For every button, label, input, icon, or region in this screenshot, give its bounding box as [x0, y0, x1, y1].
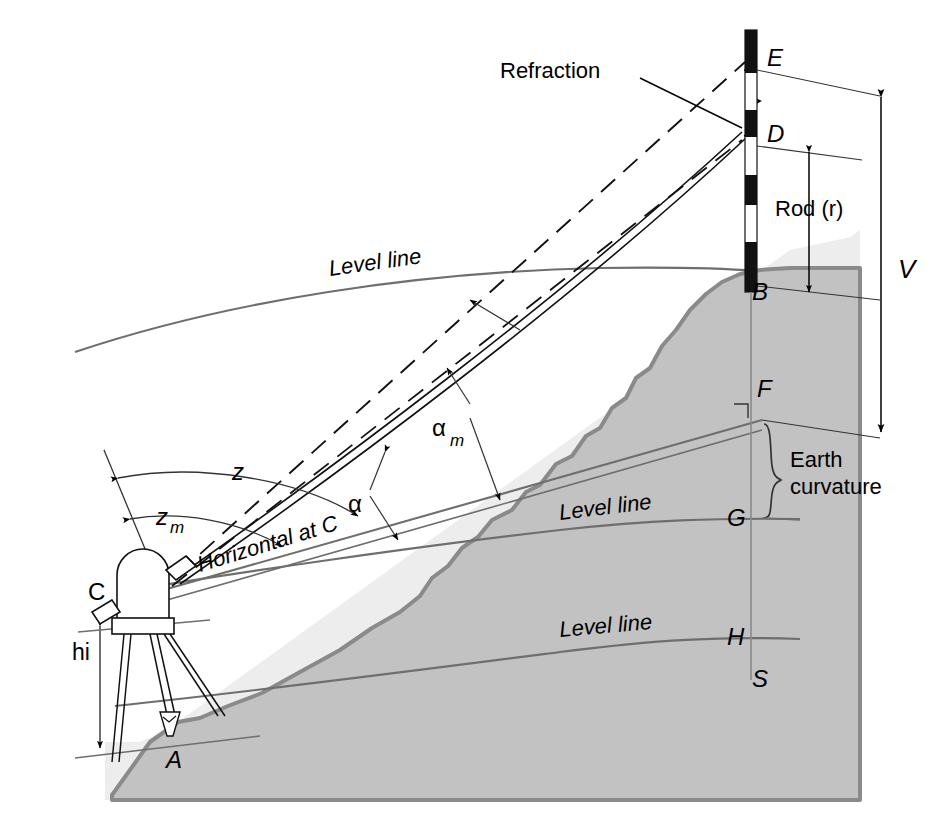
figure-root: Refraction E D B F G H S C A Rod (r) V E…: [0, 0, 945, 839]
label-angle-alpha: α: [348, 490, 362, 517]
label-level-line-top: Level line: [327, 243, 423, 281]
alpha-leader-down: [370, 496, 398, 540]
label-angle-alpha-m-subscript: m: [450, 431, 464, 450]
label-point-B: B: [752, 278, 768, 305]
label-earth-curvature-line1: Earth: [790, 447, 843, 472]
leveling-diagram-svg: Refraction E D B F G H S C A Rod (r) V E…: [0, 0, 945, 839]
alpha-leader-up: [370, 452, 385, 490]
label-angle-alpha-m-symbol: α: [432, 414, 446, 441]
label-point-F: F: [757, 375, 773, 402]
label-horizontal-at-c: Horizontal at C: [194, 510, 341, 576]
label-point-H: H: [727, 623, 745, 650]
alpha-m-tick: [470, 300, 520, 330]
label-earth-curvature-line2: curvature: [790, 474, 882, 499]
label-angle-zm-subscript: m: [170, 518, 184, 537]
label-angle-zm: z m: [155, 503, 184, 537]
label-angle-z: z: [231, 458, 244, 485]
label-point-E: E: [767, 44, 784, 71]
label-point-G: G: [727, 504, 746, 531]
label-hi: hi: [72, 639, 90, 665]
label-point-A: A: [164, 746, 182, 773]
label-point-D: D: [767, 120, 784, 147]
label-refraction: Refraction: [500, 58, 600, 83]
label-point-S: S: [752, 665, 768, 692]
level-line-top-path: [75, 268, 757, 352]
refraction-leader-line: [640, 78, 742, 128]
label-point-C: C: [88, 578, 105, 605]
label-V: V: [898, 254, 918, 284]
alpha-m-leader-down: [470, 418, 500, 500]
label-angle-zm-symbol: z: [155, 503, 168, 530]
leader-E: [757, 70, 880, 96]
label-angle-alpha-m: α m: [432, 414, 464, 450]
label-rod: Rod (r): [775, 196, 843, 221]
